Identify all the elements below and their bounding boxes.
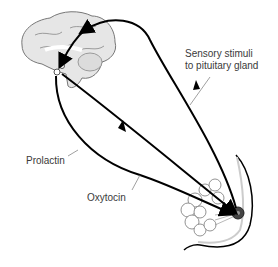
oxytocin-label: Oxytocin bbox=[87, 192, 126, 204]
sensory-label-line2: to pituitary gland bbox=[185, 60, 258, 72]
prolactin-label: Prolactin bbox=[26, 155, 65, 167]
sensory-stimuli-label: Sensory stimuli to pituitary gland bbox=[185, 48, 258, 72]
diagram-canvas bbox=[0, 0, 278, 267]
breast-illustration bbox=[181, 155, 252, 250]
oxytocin-arrow bbox=[62, 74, 232, 210]
sensory-label-line1: Sensory stimuli bbox=[185, 48, 258, 60]
